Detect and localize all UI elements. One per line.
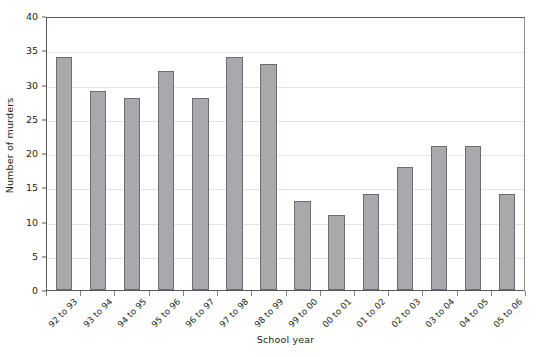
bar <box>158 71 174 290</box>
bar <box>328 215 344 290</box>
y-axis-tick-labels: 0510152025303540 <box>18 0 42 291</box>
bar-slot <box>286 18 320 290</box>
x-axis-tick-label: 93 to 94 <box>82 297 114 329</box>
bar <box>465 146 481 290</box>
y-axis-tick-label: 35 <box>18 47 42 57</box>
bar-slot <box>81 18 115 290</box>
bar <box>499 194 515 290</box>
bar <box>397 167 413 290</box>
y-axis-tick-mark <box>42 222 46 223</box>
y-axis-tick-label: 20 <box>18 149 42 159</box>
bar <box>56 57 72 290</box>
y-axis-tick-mark <box>42 291 46 292</box>
bar <box>124 98 140 290</box>
x-axis-title: School year <box>46 334 525 345</box>
y-axis-tick-label: 15 <box>18 184 42 194</box>
x-axis-tick-mark <box>525 291 526 296</box>
y-axis-tick-mark <box>42 85 46 86</box>
y-axis-tick-mark <box>42 17 46 18</box>
x-axis-tick-labels: 92 to 9393 to 9494 to 9595 to 9696 to 97… <box>46 291 525 336</box>
bar-slot <box>217 18 251 290</box>
bar <box>294 201 310 290</box>
bar-slot <box>456 18 490 290</box>
y-axis-tick-label: 0 <box>18 286 42 296</box>
x-axis-tick-label: 96 to 97 <box>184 297 216 329</box>
bar-slot <box>149 18 183 290</box>
y-axis-tick-label: 10 <box>18 218 42 228</box>
bar <box>431 146 447 290</box>
y-axis-tick-mark <box>42 256 46 257</box>
bar-chart: Number of murders 0510152025303540 92 to… <box>0 0 542 357</box>
x-axis-tick-label: 05 to 06 <box>492 297 524 329</box>
x-axis-tick-label: 98 to 99 <box>253 297 285 329</box>
bar-slot <box>490 18 524 290</box>
bar-slot <box>320 18 354 290</box>
x-axis-tick-label: 01 to 02 <box>355 297 387 329</box>
x-axis-tick-label: 99 to 00 <box>287 297 319 329</box>
bar-slot <box>47 18 81 290</box>
bar <box>90 91 106 290</box>
x-axis-tick-label: 02 to 03 <box>390 297 422 329</box>
x-axis-tick-label: 00 to 01 <box>321 297 353 329</box>
x-axis-tick-label: 03 to 04 <box>424 297 456 329</box>
y-axis-tick-mark <box>42 119 46 120</box>
y-axis-title-label: Number of murders <box>5 97 16 193</box>
bar <box>192 98 208 290</box>
bar-slot <box>183 18 217 290</box>
x-axis-tick-label: 04 to 05 <box>458 297 490 329</box>
plot-area <box>46 17 525 291</box>
bars-container <box>47 18 524 290</box>
y-axis-tick-label: 40 <box>18 12 42 22</box>
bar-slot <box>388 18 422 290</box>
y-axis-tick-mark <box>42 188 46 189</box>
x-axis-tick-label: 92 to 93 <box>47 297 79 329</box>
bar-slot <box>354 18 388 290</box>
bar-slot <box>251 18 285 290</box>
bar-slot <box>422 18 456 290</box>
y-axis-tick-mark <box>42 51 46 52</box>
x-axis-tick-label: 97 to 98 <box>218 297 250 329</box>
x-axis-tick-label: 94 to 95 <box>116 297 148 329</box>
y-axis-tick-label: 5 <box>18 252 42 262</box>
y-axis-tick-label: 30 <box>18 81 42 91</box>
y-axis-title: Number of murders <box>0 0 20 290</box>
y-axis-tick-label: 25 <box>18 115 42 125</box>
x-axis-tick-label: 95 to 96 <box>150 297 182 329</box>
bar <box>260 64 276 290</box>
y-axis-tick-mark <box>42 154 46 155</box>
bar <box>226 57 242 290</box>
bar <box>363 194 379 290</box>
bar-slot <box>115 18 149 290</box>
